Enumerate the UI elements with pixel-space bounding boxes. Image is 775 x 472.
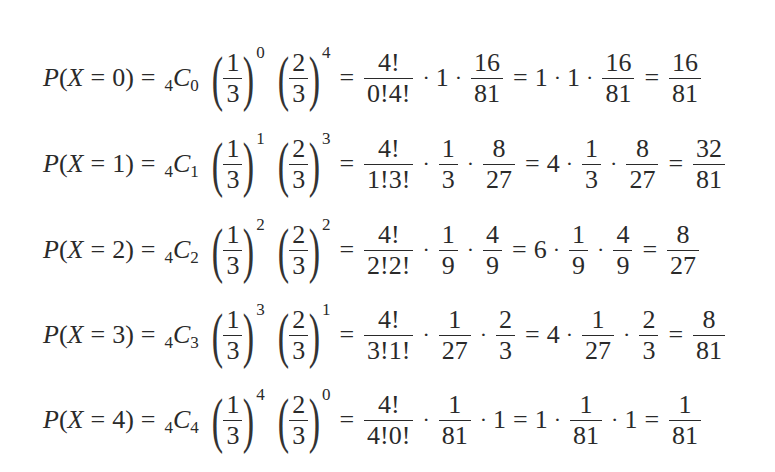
factorial-coefficient-denominator: 2!2! (364, 250, 413, 281)
lhs-equals: = (90, 149, 105, 179)
equation-row: P(X=4)=4C4(13)4(23)0=4!4!0!·181·1=1·181·… (43, 380, 704, 460)
step2-factor1-numerator: 1 (569, 220, 588, 250)
failure-term-fraction-numerator: 2 (289, 305, 308, 335)
step1-factor2-denominator: 9 (483, 250, 502, 281)
step1-factor2-numerator: 16 (471, 48, 503, 78)
success-term-fraction-denominator: 3 (223, 335, 242, 366)
step1-factor1-denominator: 3 (439, 164, 458, 195)
success-term-fraction: 13 (223, 48, 242, 109)
success-term-fraction: 13 (223, 220, 242, 281)
failure-term-fraction: 23 (289, 48, 308, 109)
failure-term-fraction: 23 (289, 220, 308, 281)
step2-factor1: 13 (582, 134, 601, 195)
equals-sign: = (339, 149, 354, 179)
random-variable: X (68, 235, 84, 265)
factorial-coefficient-denominator: 4!0! (364, 420, 413, 451)
step2-factor2-numerator: 2 (639, 305, 658, 335)
step2-coefficient: 1 (535, 63, 548, 93)
equals-sign: = (339, 63, 354, 93)
step2-factor1-denominator: 3 (582, 164, 601, 195)
factorial-coefficient: 4!3!1! (364, 305, 413, 366)
binom-c: C (173, 235, 190, 265)
equals-sign: = (141, 405, 156, 435)
step2-factor2-numerator: 16 (602, 48, 634, 78)
step1-factor2: 1 (493, 405, 506, 435)
failure-term: (23)1 (273, 304, 331, 366)
outcome-value: 4 (112, 405, 125, 435)
close-paren: ) (125, 320, 134, 350)
success-term-fraction-denominator: 3 (223, 250, 242, 281)
failure-term-exponent: 3 (322, 129, 331, 149)
multiply-dot: · (422, 65, 429, 91)
step1-factor1: 1 (436, 63, 449, 93)
failure-term-fraction-numerator: 2 (289, 48, 308, 78)
multiply-dot: · (455, 65, 462, 91)
step1-factor1-numerator: 1 (439, 134, 458, 164)
result-fraction-denominator: 81 (693, 335, 725, 366)
equation-row: P(X=1)=4C1(13)1(23)3=4!1!3!·13·827=4·13·… (43, 124, 728, 204)
close-paren: ) (125, 149, 134, 179)
equals-sign: = (339, 320, 354, 350)
step1-factor1-denominator: 27 (439, 335, 471, 366)
multiply-dot: · (480, 322, 487, 348)
failure-term-fraction-denominator: 3 (289, 164, 308, 195)
multiply-dot: · (566, 151, 573, 177)
step1-factor1: 19 (439, 220, 458, 281)
step1-factor2-numerator: 8 (490, 134, 509, 164)
success-term-fraction-numerator: 1 (223, 220, 242, 250)
step1-factor2: 49 (483, 220, 502, 281)
success-term-fraction-denominator: 3 (223, 420, 242, 451)
result-fraction: 827 (667, 220, 699, 281)
random-variable: X (68, 63, 84, 93)
step2-coefficient: 1 (535, 405, 548, 435)
success-term-fraction-numerator: 1 (223, 48, 242, 78)
step1-factor1-numerator: 1 (439, 220, 458, 250)
step1-factor2-denominator: 27 (483, 164, 515, 195)
success-term-exponent: 0 (256, 43, 265, 63)
close-paren: ) (125, 405, 134, 435)
equals-sign: = (525, 149, 540, 179)
left-paren: ( (277, 304, 288, 366)
open-paren: ( (59, 149, 68, 179)
step2-factor1: 127 (582, 305, 614, 366)
step1-factor1: 181 (439, 390, 471, 451)
result-fraction-denominator: 81 (693, 164, 725, 195)
result-fraction-numerator: 32 (693, 134, 725, 164)
open-paren: ( (59, 235, 68, 265)
open-paren: ( (59, 63, 68, 93)
step2-factor2-numerator: 8 (633, 134, 652, 164)
left-paren: ( (211, 304, 222, 366)
step1-factor2: 1681 (471, 48, 503, 109)
multiply-dot: · (586, 65, 593, 91)
step2-factor1-denominator: 81 (570, 420, 602, 451)
result-fraction-numerator: 1 (676, 390, 695, 420)
failure-term: (23)3 (273, 133, 331, 195)
success-term: (13)4 (207, 389, 265, 451)
step2-factor2-denominator: 27 (626, 164, 658, 195)
failure-term-exponent: 4 (322, 43, 331, 63)
failure-term: (23)2 (273, 219, 331, 281)
multiply-dot: · (480, 407, 487, 433)
probability-symbol: P (43, 63, 59, 93)
open-paren: ( (59, 405, 68, 435)
step1-factor1-denominator: 9 (439, 250, 458, 281)
lhs-equals: = (90, 63, 105, 93)
equation-row: P(X=3)=4C3(13)3(23)1=4!3!1!·127·23=4·127… (43, 295, 728, 375)
binom-c: C (173, 149, 190, 179)
step1-factor1-numerator: 1 (445, 305, 464, 335)
success-term-exponent: 3 (256, 300, 265, 320)
binom-k: 4 (190, 418, 199, 438)
step2-factor2-numerator: 4 (613, 220, 632, 250)
binom-c: C (173, 405, 190, 435)
step1-factor2-numerator: 2 (496, 305, 515, 335)
failure-term-fraction-numerator: 2 (289, 220, 308, 250)
binom-n: 4 (164, 162, 173, 182)
multiply-dot: · (553, 237, 560, 263)
multiply-dot: · (597, 237, 604, 263)
success-term-exponent: 4 (256, 385, 265, 405)
random-variable: X (68, 320, 84, 350)
step1-factor1-numerator: 1 (445, 390, 464, 420)
equals-sign: = (141, 235, 156, 265)
equals-sign: = (339, 405, 354, 435)
equals-sign: = (141, 320, 156, 350)
